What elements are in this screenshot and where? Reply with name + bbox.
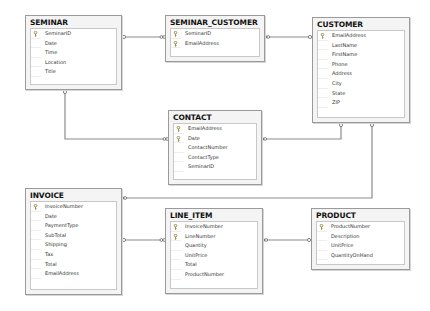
- column-name: City: [332, 80, 342, 86]
- row-selector: [31, 231, 41, 241]
- column-name: InvoiceNumber: [45, 203, 83, 209]
- table-invoice[interactable]: INVOICE InvoiceNumberDatePaymentTypeSubT…: [25, 188, 122, 295]
- column-row[interactable]: Date: [31, 39, 116, 49]
- column-row[interactable]: EmailAddress: [171, 39, 259, 49]
- column-row[interactable]: SeminarID: [171, 29, 259, 39]
- column-name: Location: [45, 59, 66, 65]
- column-row[interactable]: ContactType: [174, 153, 256, 163]
- row-selector: [174, 143, 184, 153]
- primary-key-icon: [173, 41, 178, 47]
- row-selector: [174, 153, 184, 163]
- column-row[interactable]: Description: [317, 232, 404, 242]
- table-product[interactable]: PRODUCT ProductNumberDescriptionUnitPric…: [311, 208, 410, 270]
- column-row[interactable]: Date: [31, 212, 116, 222]
- table-title: LINE_ITEM: [166, 209, 262, 221]
- table-title: CONTACT: [169, 111, 261, 123]
- column-row[interactable]: PaymentType: [31, 221, 116, 231]
- column-row[interactable]: EmailAddress: [31, 269, 116, 279]
- column-row[interactable]: LastName: [318, 41, 404, 51]
- column-row[interactable]: EmailAddress: [174, 124, 256, 134]
- column-row[interactable]: ProductNumber: [171, 270, 257, 280]
- column-row[interactable]: Address: [318, 69, 404, 79]
- table-columns: SeminarIDDateTimeLocationTitle: [30, 28, 117, 85]
- column-row[interactable]: Title: [31, 67, 116, 77]
- column-row[interactable]: SubTotal: [31, 231, 116, 241]
- primary-key-icon: [320, 33, 325, 39]
- column-name: EmailAddress: [45, 270, 79, 276]
- primary-key-icon: [33, 204, 38, 210]
- column-name: Title: [45, 68, 56, 74]
- column-name: SeminarID: [45, 30, 71, 36]
- row-selector: [318, 89, 328, 99]
- relationship-seminar-contact[interactable]: [65, 90, 168, 139]
- diagram-canvas: SEMINAR SeminarIDDateTimeLocationTitle S…: [0, 0, 430, 311]
- column-name: LineNumber: [185, 233, 216, 239]
- column-row[interactable]: ProductNumber: [317, 222, 404, 232]
- relationship-customer-contact[interactable]: [262, 123, 341, 139]
- table-customer[interactable]: CUSTOMER EmailAddressLastNameFirstNamePh…: [312, 17, 410, 123]
- column-name: Date: [45, 213, 57, 219]
- column-row[interactable]: ContactNumber: [174, 143, 256, 153]
- row-selector: [174, 162, 184, 172]
- column-name: LastName: [332, 42, 357, 48]
- table-title: INVOICE: [26, 189, 121, 201]
- column-row[interactable]: EmailAddress: [318, 31, 404, 41]
- column-row[interactable]: InvoiceNumber: [171, 222, 257, 232]
- row-selector: [171, 260, 181, 270]
- column-name: Tax: [45, 251, 53, 257]
- row-selector: [171, 241, 181, 251]
- row-selector: [317, 241, 327, 251]
- column-name: SubTotal: [45, 232, 66, 238]
- one-end-key-icon: [370, 123, 373, 126]
- column-row[interactable]: Tax: [31, 250, 116, 260]
- row-selector: [317, 232, 327, 242]
- column-row[interactable]: ZIP: [318, 98, 404, 108]
- column-row[interactable]: Location: [31, 58, 116, 68]
- column-row[interactable]: UnitPrice: [317, 241, 404, 251]
- row-selector: [318, 50, 328, 60]
- one-end-key-icon: [339, 123, 342, 126]
- primary-key-icon: [173, 234, 178, 240]
- table-line-item[interactable]: LINE_ITEM InvoiceNumberLineNumberQuantit…: [165, 208, 263, 294]
- column-row[interactable]: SeminarID: [31, 29, 116, 39]
- row-selector: [318, 98, 328, 108]
- table-seminar-customer[interactable]: SEMINAR_CUSTOMER SeminarIDEmailAddress: [165, 15, 265, 62]
- column-row[interactable]: SeminarID: [174, 162, 256, 172]
- column-row[interactable]: Shipping: [31, 240, 116, 250]
- column-row[interactable]: City: [318, 79, 404, 89]
- column-row[interactable]: Total: [171, 260, 257, 270]
- table-contact[interactable]: CONTACT EmailAddressDateContactNumberCon…: [168, 110, 262, 185]
- column-row[interactable]: Quantity: [171, 241, 257, 251]
- table-columns: InvoiceNumberDatePaymentTypeSubTotalShip…: [30, 201, 117, 290]
- column-name: InvoiceNumber: [185, 223, 223, 229]
- column-row[interactable]: UnitPrice: [171, 251, 257, 261]
- row-selector: [31, 67, 41, 77]
- column-name: Address: [332, 70, 352, 76]
- column-row[interactable]: State: [318, 89, 404, 99]
- primary-key-icon: [176, 126, 181, 132]
- column-row[interactable]: Date: [174, 134, 256, 144]
- column-row[interactable]: Time: [31, 48, 116, 58]
- row-selector: [317, 251, 327, 261]
- column-row[interactable]: InvoiceNumber: [31, 202, 116, 212]
- column-row[interactable]: Phone: [318, 60, 404, 70]
- row-selector: [31, 212, 41, 222]
- table-title: SEMINAR_CUSTOMER: [166, 16, 264, 28]
- one-end-key-icon: [122, 35, 125, 38]
- row-selector: [318, 60, 328, 70]
- column-row[interactable]: LineNumber: [171, 232, 257, 242]
- column-name: Phone: [332, 61, 348, 67]
- row-selector: [31, 39, 41, 49]
- primary-key-icon: [173, 31, 178, 37]
- row-selector: [318, 41, 328, 51]
- row-selector: [171, 251, 181, 261]
- row-selector: [31, 250, 41, 260]
- table-seminar[interactable]: SEMINAR SeminarIDDateTimeLocationTitle: [25, 15, 122, 90]
- table-title: CUSTOMER: [313, 18, 409, 30]
- primary-key-icon: [176, 136, 181, 142]
- table-columns: EmailAddressDateContactNumberContactType…: [173, 123, 257, 180]
- column-row[interactable]: Total: [31, 260, 116, 270]
- row-selector: [31, 221, 41, 231]
- column-row[interactable]: FirstName: [318, 50, 404, 60]
- column-row[interactable]: QuantityOnHand: [317, 251, 404, 261]
